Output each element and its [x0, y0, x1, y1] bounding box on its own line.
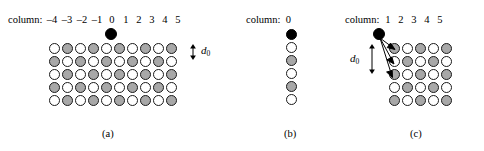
lattice-site-white	[75, 43, 86, 54]
lattice-site-gray	[75, 56, 86, 67]
lattice-figure: column:–4–3–2–1012345 d0 (a) column:0 (b…	[0, 0, 484, 151]
spacing-arrow-panel-c	[365, 44, 379, 74]
lattice-site-gray	[49, 56, 60, 67]
column-number: 0	[282, 14, 294, 25]
lattice-site-white	[101, 95, 112, 106]
lattice-site-gray	[114, 69, 125, 80]
column-number: –1	[89, 14, 104, 25]
lattice-row	[48, 43, 178, 56]
column-number: –2	[74, 14, 89, 25]
lattice-grid-panel-a	[48, 43, 178, 108]
lattice-site-white	[114, 56, 125, 67]
hop-arrows-panel-c	[312, 0, 484, 151]
lattice-site-gray	[140, 95, 151, 106]
lattice-site-white	[49, 43, 60, 54]
lattice-row	[285, 81, 298, 94]
lattice-site-white	[166, 56, 177, 67]
lattice-column-panel-b	[285, 29, 298, 107]
lattice-site-gray	[286, 55, 297, 66]
column-number: –4	[44, 14, 59, 25]
column-number: 4	[158, 14, 171, 25]
adatom-circle-panel-a	[105, 28, 117, 40]
lattice-row	[285, 94, 298, 107]
panel-label-b: (b)	[284, 128, 296, 139]
lattice-row	[285, 42, 298, 55]
lattice-site-white	[88, 82, 99, 93]
column-number: 0	[104, 14, 119, 25]
lattice-site-gray	[75, 82, 86, 93]
column-number: 2	[132, 14, 145, 25]
lattice-site-white	[140, 56, 151, 67]
lattice-row	[48, 56, 178, 69]
lattice-site-white	[114, 82, 125, 93]
lattice-site-white	[101, 43, 112, 54]
lattice-site-black	[286, 29, 297, 40]
lattice-site-gray	[114, 95, 125, 106]
lattice-site-gray	[140, 69, 151, 80]
lattice-row	[285, 29, 298, 42]
spacing-label-panel-c: d0	[350, 52, 359, 64]
column-number: 5	[171, 14, 184, 25]
lattice-site-gray	[88, 95, 99, 106]
lattice-site-gray	[166, 69, 177, 80]
lattice-site-white	[88, 56, 99, 67]
lattice-site-gray	[62, 69, 73, 80]
panel-b: column:0 (b)	[232, 0, 312, 151]
lattice-site-white	[166, 82, 177, 93]
lattice-row	[48, 69, 178, 82]
lattice-site-white	[62, 82, 73, 93]
spacing-arrow-panel-a	[186, 44, 200, 60]
lattice-site-gray	[62, 43, 73, 54]
lattice-site-gray	[101, 56, 112, 67]
lattice-site-gray	[140, 43, 151, 54]
column-number: 1	[119, 14, 132, 25]
lattice-site-white	[286, 68, 297, 79]
lattice-site-white	[49, 69, 60, 80]
lattice-site-white	[127, 43, 138, 54]
column-header-label: column:	[8, 14, 42, 25]
lattice-site-gray	[49, 82, 60, 93]
spacing-label-panel-a: d0	[201, 44, 210, 56]
lattice-site-white	[153, 95, 164, 106]
lattice-site-gray	[88, 69, 99, 80]
lattice-site-white	[286, 94, 297, 105]
lattice-site-gray	[153, 82, 164, 93]
lattice-site-white	[153, 43, 164, 54]
panel-b-column-header: column:0	[246, 14, 294, 25]
lattice-site-white	[49, 95, 60, 106]
lattice-site-white	[153, 69, 164, 80]
lattice-site-gray	[153, 56, 164, 67]
lattice-site-gray	[127, 56, 138, 67]
panel-a: column:–4–3–2–1012345 d0 (a)	[0, 0, 232, 151]
column-number: 3	[145, 14, 158, 25]
lattice-site-white	[75, 69, 86, 80]
column-number: –3	[59, 14, 74, 25]
panel-label-c: (c)	[410, 128, 422, 139]
panel-c: column:12345 d0 (c)	[312, 0, 484, 151]
lattice-row	[48, 95, 178, 108]
lattice-site-gray	[286, 81, 297, 92]
lattice-site-white	[62, 56, 73, 67]
panel-a-column-header: column:–4–3–2–1012345	[8, 14, 184, 25]
lattice-site-white	[127, 69, 138, 80]
lattice-site-gray	[166, 43, 177, 54]
lattice-site-gray	[127, 82, 138, 93]
lattice-site-white	[101, 69, 112, 80]
lattice-row	[48, 82, 178, 95]
lattice-site-gray	[62, 95, 73, 106]
lattice-site-white	[286, 42, 297, 53]
column-header-label: column:	[246, 14, 280, 25]
lattice-site-white	[127, 95, 138, 106]
lattice-row	[285, 68, 298, 81]
lattice-site-gray	[88, 43, 99, 54]
lattice-site-gray	[114, 43, 125, 54]
lattice-row	[285, 55, 298, 68]
lattice-site-white	[75, 95, 86, 106]
lattice-site-gray	[101, 82, 112, 93]
lattice-site-gray	[166, 95, 177, 106]
panel-label-a: (a)	[102, 128, 114, 139]
lattice-site-white	[140, 82, 151, 93]
